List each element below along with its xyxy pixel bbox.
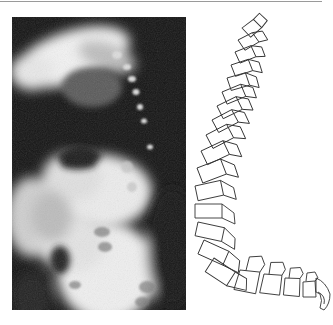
xray-image — [12, 17, 186, 310]
top-rule-divider — [0, 1, 322, 2]
spine-schematic — [190, 12, 333, 317]
vertebra-shapes — [194, 12, 330, 310]
